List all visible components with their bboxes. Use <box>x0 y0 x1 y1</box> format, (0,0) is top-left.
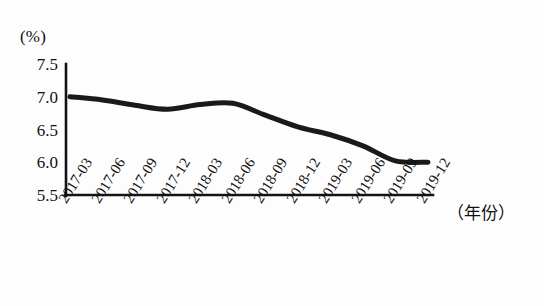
plot-area <box>0 0 544 306</box>
chart-figure: (%) 7.57.06.56.05.5 2017-032017-062017-0… <box>0 0 544 306</box>
x-axis-title: （年份） <box>447 203 515 223</box>
data-series-line <box>70 97 428 163</box>
